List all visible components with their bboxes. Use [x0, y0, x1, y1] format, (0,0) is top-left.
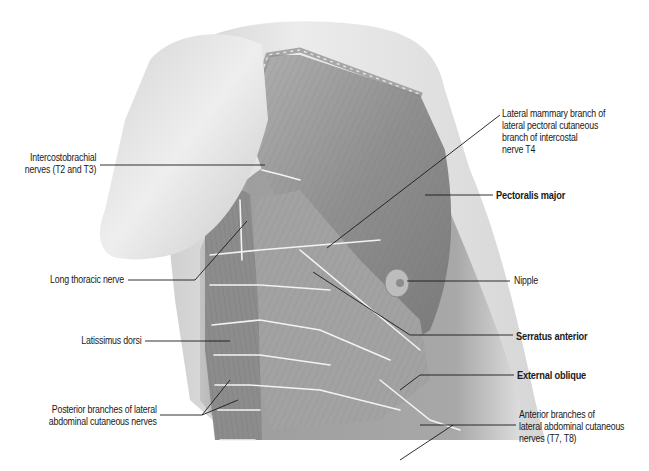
label-line: nerves (T2 and T3) — [24, 164, 96, 176]
label-intercostobrachial-nerves: Intercostobrachial nerves (T2 and T3) — [24, 152, 96, 176]
label-pectoralis-major: Pectoralis major — [496, 189, 565, 201]
label-line: Long thoracic nerve — [50, 274, 124, 286]
label-line: lateral pectoral cutaneous — [502, 120, 605, 132]
label-anterior-branches: Anterior branches of lateral abdominal c… — [519, 409, 624, 445]
label-line: Pectoralis major — [496, 189, 565, 201]
label-line: Serratus anterior — [516, 330, 587, 342]
anatomy-illustration — [0, 0, 649, 471]
label-long-thoracic-nerve: Long thoracic nerve — [50, 274, 124, 286]
label-external-oblique: External oblique — [517, 369, 586, 381]
label-line: Posterior branches of lateral — [49, 404, 157, 416]
label-latissimus-dorsi: Latissimus dorsi — [81, 335, 141, 347]
label-posterior-branches: Posterior branches of lateral abdominal … — [49, 404, 157, 428]
label-serratus-anterior: Serratus anterior — [516, 330, 587, 342]
label-line: abdominal cutaneous nerves — [49, 416, 157, 428]
label-line: Anterior branches of — [519, 409, 624, 421]
label-lateral-mammary-branch: Lateral mammary branch of lateral pector… — [502, 108, 605, 156]
label-line: Nipple — [514, 275, 538, 287]
label-line: Intercostobrachial — [24, 152, 96, 164]
label-line: nerves (T7, T8) — [519, 433, 624, 445]
label-line: nerve T4 — [502, 144, 605, 156]
label-nipple: Nipple — [514, 275, 538, 287]
label-line: lateral abdominal cutaneous — [519, 421, 624, 433]
label-line: branch of intercostal — [502, 132, 605, 144]
label-line: Latissimus dorsi — [81, 335, 141, 347]
label-line: Lateral mammary branch of — [502, 108, 605, 120]
label-line: External oblique — [517, 369, 586, 381]
